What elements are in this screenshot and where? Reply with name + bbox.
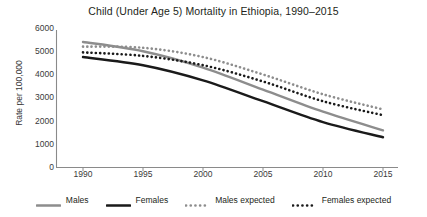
dotted-gray-line-swatch [185,196,210,205]
x-tick-label: 2010 [303,170,343,179]
legend-item[interactable]: Females [106,195,169,205]
x-tick-label: 2015 [363,170,403,179]
x-tick-label: 1990 [63,170,103,179]
legend-label: Females expected [322,195,391,205]
solid-gray-line-swatch [36,196,61,205]
x-tick-label: 1995 [123,170,163,179]
legend-label: Females [136,195,169,205]
axis-lines [56,30,398,168]
legend-label: Males [66,195,89,205]
x-tick-label: 2005 [243,170,283,179]
legend-item[interactable]: Males [36,195,89,205]
legend-label: Males expected [215,195,275,205]
chart-legend: MalesFemalesMales expectedFemales expect… [0,190,427,210]
x-tick-label: 2000 [183,170,223,179]
data-series-group [83,42,383,137]
chart-container: Child (Under Age 5) Mortality in Ethiopi… [0,0,427,217]
plot-area [0,0,427,217]
legend-item[interactable]: Males expected [185,195,275,205]
series-line-males [83,42,383,130]
legend-item[interactable]: Females expected [292,195,391,205]
dotted-black-line-swatch [292,196,317,205]
solid-black-line-swatch [106,196,131,205]
